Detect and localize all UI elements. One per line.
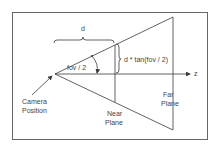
fov-angle-label: fov / 2 (67, 64, 86, 71)
far-plane-label-line2: Plane (161, 100, 179, 107)
near-plane-label-line1: Near (107, 110, 123, 117)
camera-label-line2: Position (22, 107, 47, 114)
z-axis-label: z (194, 70, 198, 77)
near-plane-label-line2: Plane (105, 119, 123, 126)
camera-pointer-arrow (32, 76, 52, 95)
frustum-diagram: z d d * tan(fov / 2) fov / 2 Camera Posi… (0, 0, 220, 144)
fov-angle-arc (92, 56, 97, 73)
distance-brace (54, 37, 114, 43)
half-height-label: d * tan(fov / 2) (124, 56, 168, 64)
distance-label: d (81, 25, 85, 32)
far-plane-label-line1: Far (163, 91, 174, 98)
half-height-brace (116, 44, 121, 73)
camera-label-line1: Camera (22, 98, 47, 105)
fov-angle-marker (91, 55, 93, 57)
